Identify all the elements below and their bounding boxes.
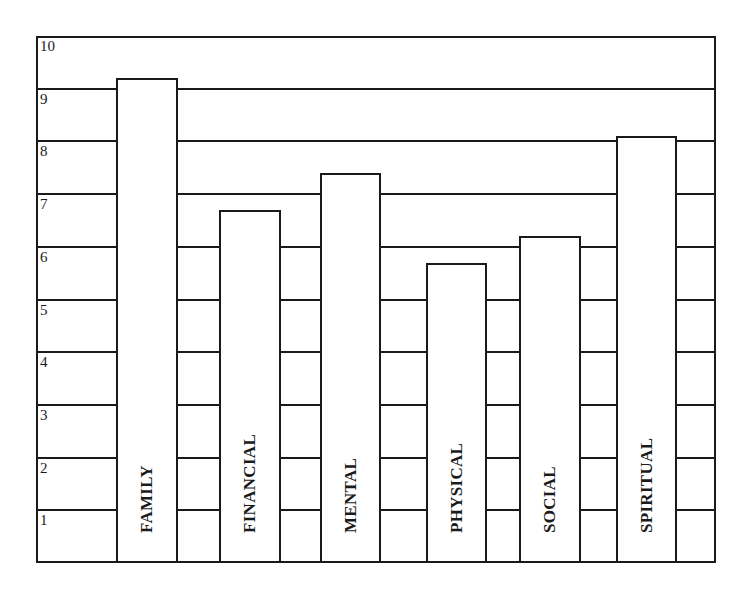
bar-chart: 12345678910 FAMILYFINANCIALMENTALPHYSICA…: [0, 0, 750, 595]
category-label: FAMILY: [137, 465, 157, 533]
y-tick-label: 7: [40, 197, 48, 212]
category-label: MENTAL: [341, 458, 361, 533]
category-label: SOCIAL: [540, 466, 560, 533]
category-label: SPIRITUAL: [637, 438, 657, 533]
y-tick-label: 5: [40, 303, 48, 318]
y-tick-label: 1: [40, 513, 48, 528]
y-tick-label: 10: [40, 39, 55, 54]
y-tick-label: 8: [40, 144, 48, 159]
y-tick-label: 6: [40, 250, 48, 265]
y-tick-label: 4: [40, 355, 48, 370]
category-label: FINANCIAL: [240, 434, 260, 533]
category-label: PHYSICAL: [447, 443, 467, 533]
y-tick-label: 9: [40, 92, 48, 107]
y-tick-label: 3: [40, 408, 48, 423]
y-tick-label: 2: [40, 461, 48, 476]
